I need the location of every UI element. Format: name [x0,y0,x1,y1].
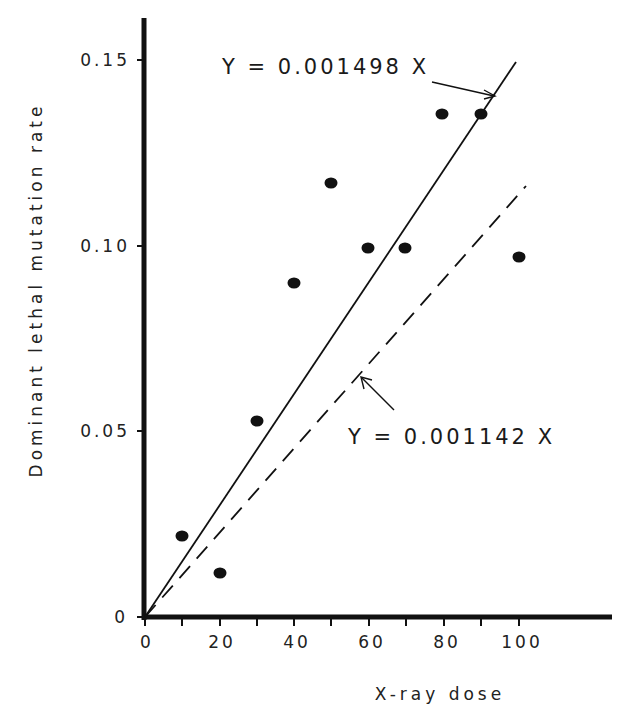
y-tick-label: 0 [114,607,128,627]
axes [142,18,612,620]
x-tick-label: 40 [283,632,311,652]
data-point [214,568,227,579]
scatter-chart: 0 0.05 0.10 0.15 0 20 40 60 80 100 X-ray… [0,0,630,720]
x-tick-label: 60 [358,632,386,652]
x-tick-labels: 0 20 40 60 80 100 [140,632,543,652]
y-tick-label: 0.05 [80,421,130,441]
solid-line-equation: Y = 0.001498 X [221,55,429,79]
data-point [325,178,338,189]
x-axis-title: X-ray dose [375,684,505,704]
x-tick-label: 80 [433,632,461,652]
data-point [513,252,526,263]
x-tick-label: 20 [208,632,236,652]
y-tick-label: 0.15 [80,50,130,70]
y-tick-label: 0.10 [80,236,130,256]
data-point [399,243,412,254]
x-tick-label: 0 [140,632,154,652]
dashed-regression-line [145,186,526,617]
dashed-line-equation: Y = 0.001142 X [347,425,555,449]
data-point [176,531,189,542]
data-points [176,109,526,579]
x-tick-label: 100 [501,632,542,652]
data-point [251,416,264,427]
data-point [288,278,301,289]
y-tick-labels: 0 0.05 0.10 0.15 [80,50,130,627]
data-point [436,109,449,120]
arrow-icon [361,377,394,410]
arrow-icon [432,82,495,99]
data-point [475,109,488,120]
y-axis-title: Dominant lethal mutation rate [26,103,46,478]
solid-regression-line [145,62,516,617]
data-point [362,243,375,254]
